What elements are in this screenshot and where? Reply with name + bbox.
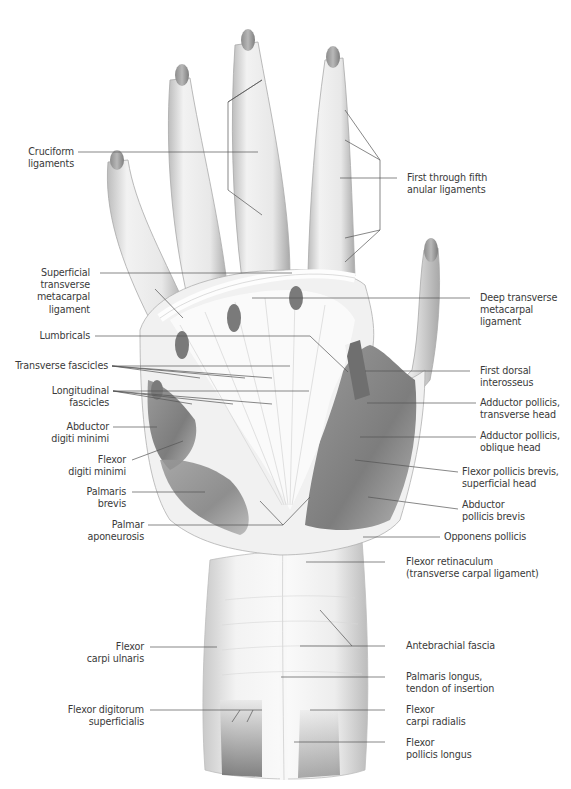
- label-antebrachial-fascia: Antebrachial fascia: [406, 640, 495, 652]
- label-opponens-pollicis: Opponens pollicis: [444, 531, 526, 543]
- label-flexor-digitorum-superficialis: Flexor digitorumsuperficialis: [68, 704, 144, 728]
- label-flexor-pollicis-longus: Flexorpollicis longus: [406, 737, 471, 761]
- label-deep-transverse-metacarpal-ligament: Deep transversemetacarpalligament: [480, 292, 557, 329]
- label-palmar-aponeurosis: Palmaraponeurosis: [87, 519, 144, 543]
- label-first-dorsal-interosseus: First dorsalinterosseus: [480, 365, 533, 389]
- label-flexor-carpi-radialis: Flexorcarpi radialis: [406, 704, 466, 728]
- label-superficial-transverse-metacarpal-ligament: Superficialtransversemetacarpalligament: [37, 267, 90, 316]
- label-flexor-retinaculum: Flexor retinaculum(transverse carpal lig…: [406, 556, 539, 580]
- palm: [140, 270, 425, 555]
- label-palmaris-longus-tendon: Palmaris longus,tendon of insertion: [406, 671, 494, 695]
- label-cruciform-ligaments: Cruciformligaments: [28, 146, 74, 170]
- label-abductor-digiti-minimi: Abductordigiti minimi: [51, 421, 109, 445]
- label-flexor-carpi-ulnaris: Flexorcarpi ulnaris: [87, 641, 144, 665]
- label-palmaris-brevis: Palmarisbrevis: [86, 486, 126, 510]
- label-abductor-pollicis-brevis: Abductorpollicis brevis: [462, 499, 525, 523]
- label-adductor-pollicis-transverse-head: Adductor pollicis,transverse head: [480, 397, 560, 421]
- label-lumbricals: Lumbricals: [39, 330, 90, 342]
- label-anular-ligaments: First through fifthanular ligaments: [407, 172, 487, 196]
- label-adductor-pollicis-oblique-head: Adductor pollicis,oblique head: [480, 430, 560, 454]
- hand-anatomy-figure: Cruciformligaments Superficialtransverse…: [0, 0, 571, 789]
- label-transverse-fascicles: Transverse fascicles: [15, 360, 108, 372]
- label-flexor-pollicis-brevis: Flexor pollicis brevis,superficial head: [462, 466, 559, 490]
- label-longitudinal-fascicles: Longitudinalfascicles: [52, 385, 109, 409]
- label-flexor-digiti-minimi: Flexordigiti minimi: [68, 454, 126, 478]
